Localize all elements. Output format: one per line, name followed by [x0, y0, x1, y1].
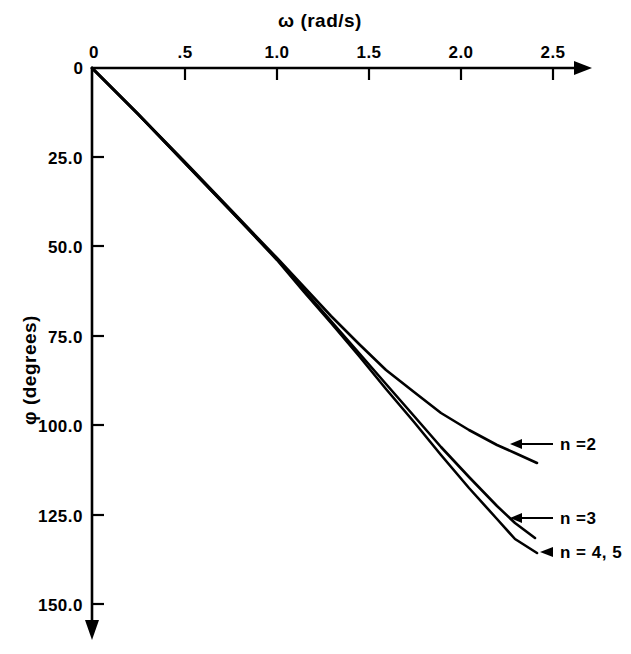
annotation-n-2: n =2 — [510, 435, 597, 454]
x-tick-label-1.5: 1.5 — [356, 43, 381, 62]
x-axis-title: ω (rad/s) — [278, 10, 362, 31]
y-axis-arrowhead — [85, 620, 99, 640]
y-tick-label-0: 0 — [74, 59, 83, 78]
y-axis-title: φ (degrees) — [19, 315, 40, 425]
x-tick-label-0.5: .5 — [177, 43, 192, 62]
curve-n-4-5 — [92, 68, 537, 553]
y-tick-label-100: 100.0 — [38, 417, 83, 436]
x-tick-label-1.0: 1.0 — [264, 43, 289, 62]
y-tick-label-25: 25.0 — [48, 149, 83, 168]
annotation-n-4-5: n = 4, 5 — [540, 543, 622, 562]
x-axis-arrowhead — [574, 61, 592, 75]
curve-label-n-3: n =3 — [560, 509, 597, 528]
y-axis-group: 0 25.0 50.0 75.0 100.0 125.0 150.0 φ (de… — [19, 59, 104, 640]
y-tick-label-125: 125.0 — [38, 507, 83, 526]
y-tick-label-150: 150.0 — [38, 596, 83, 615]
chart-canvas: 0 .5 1.0 1.5 2.0 2.5 ω (rad/s) 0 25.0 50… — [0, 0, 631, 654]
figure-container: 0 .5 1.0 1.5 2.0 2.5 ω (rad/s) 0 25.0 50… — [0, 0, 631, 654]
annotation-arrow-n-2-head — [510, 439, 522, 449]
curve-n-2 — [92, 68, 537, 463]
x-tick-label-2.0: 2.0 — [448, 43, 473, 62]
x-tick-label-0: 0 — [89, 43, 99, 62]
x-axis-group: 0 .5 1.0 1.5 2.0 2.5 ω (rad/s) — [89, 10, 592, 80]
x-tick-label-2.5: 2.5 — [540, 43, 565, 62]
data-series-group — [92, 68, 537, 553]
y-tick-label-75: 75.0 — [48, 328, 83, 347]
y-tick-label-50: 50.0 — [48, 238, 83, 257]
curve-label-n-4-5: n = 4, 5 — [560, 543, 622, 562]
annotation-arrow-n-4-5-head — [540, 547, 553, 557]
annotation-n-3: n =3 — [510, 509, 597, 528]
curve-label-n-2: n =2 — [560, 435, 597, 454]
